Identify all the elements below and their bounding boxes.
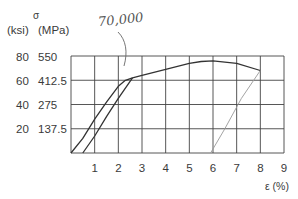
x-axis-label: ε (%) — [265, 180, 289, 192]
offset-line — [83, 78, 133, 153]
y-tick-ksi-60: 60 — [16, 75, 29, 87]
x-tick-9: 9 — [277, 162, 291, 174]
annotation-arrow — [118, 32, 126, 66]
unloading-line — [211, 71, 261, 154]
y-tick-mpa-550: 550 — [38, 51, 57, 63]
y-tick-mpa-137: 137.5 — [38, 123, 67, 135]
x-tick-3: 3 — [135, 162, 149, 174]
y-tick-ksi-40: 40 — [16, 99, 29, 111]
y-axis-unit-mpa: (MPa) — [38, 24, 69, 36]
y-tick-mpa-412: 412.5 — [38, 75, 67, 87]
y-tick-mpa-275: 275 — [38, 99, 57, 111]
y-axis-unit-ksi: (ksi) — [7, 24, 29, 36]
x-tick-7: 7 — [230, 162, 244, 174]
y-tick-ksi-80: 80 — [16, 51, 29, 63]
x-tick-8: 8 — [253, 162, 267, 174]
x-tick-6: 6 — [206, 162, 220, 174]
x-tick-4: 4 — [159, 162, 173, 174]
x-tick-2: 2 — [111, 162, 125, 174]
x-tick-5: 5 — [182, 162, 196, 174]
x-tick-1: 1 — [88, 162, 102, 174]
y-axis-symbol: σ — [33, 10, 39, 22]
y-tick-ksi-20: 20 — [16, 123, 29, 135]
